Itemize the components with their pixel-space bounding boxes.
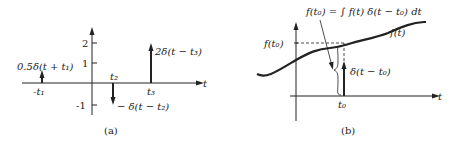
t3-position-label: t₃ bbox=[147, 86, 155, 97]
tick-label-2: 2 bbox=[82, 38, 88, 49]
minus-t1-position-label: -t₁ bbox=[33, 86, 44, 97]
caption-b: (b) bbox=[341, 125, 355, 136]
f-t0-axis-label: f(t₀) bbox=[263, 38, 284, 49]
caption-a: (a) bbox=[104, 125, 118, 136]
sifting-equation: f(t₀) = ∫ f(t) δ(t − t₀) dt bbox=[305, 6, 423, 17]
f-t-curve-label: f(t) bbox=[389, 27, 406, 38]
figure: t 2 1 -1 0.5δ(t + t₁) -t₁ t₂ − δ(t − t₂)… bbox=[0, 0, 452, 146]
impulse-t3-label: 2δ(t − t₃) bbox=[154, 46, 202, 57]
tick-label-minus-1: -1 bbox=[76, 100, 86, 111]
impulse-t0-label: δ(t − t₀) bbox=[350, 66, 391, 77]
t2-position-label: t₂ bbox=[110, 71, 118, 82]
t0-position-label: t₀ bbox=[338, 99, 346, 110]
impulse-t2-label: − δ(t − t₂) bbox=[117, 101, 169, 112]
impulse-minus-t1-label: 0.5δ(t + t₁) bbox=[17, 61, 74, 72]
panel-b: t f(t) f(t₀) δ(t − t₀) t₀ f(t₀) = ∫ f(t)… bbox=[257, 6, 443, 136]
brace bbox=[334, 46, 341, 95]
panel-a: t 2 1 -1 0.5δ(t + t₁) -t₁ t₂ − δ(t − t₂)… bbox=[17, 31, 208, 136]
t-axis-label-b: t bbox=[438, 91, 443, 102]
t-axis-label-a: t bbox=[203, 78, 208, 89]
tick-label-1: 1 bbox=[82, 58, 88, 69]
